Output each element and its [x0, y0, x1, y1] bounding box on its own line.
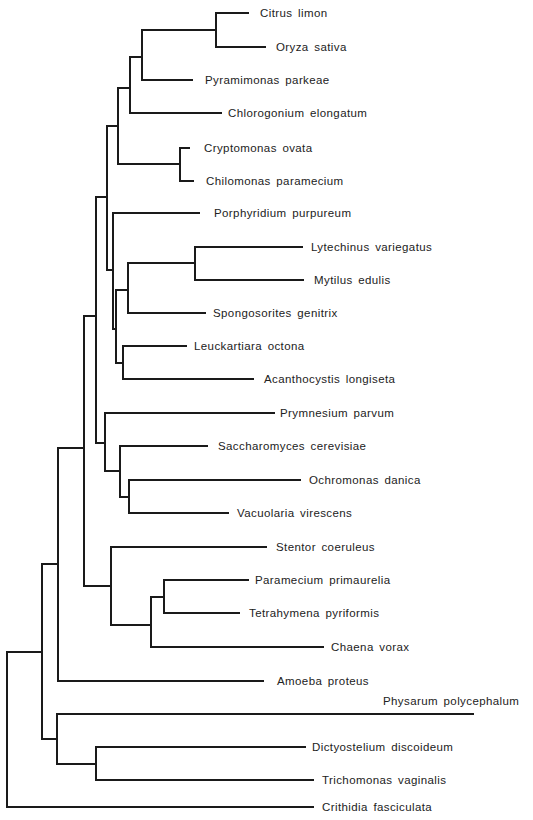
taxon-label: Physarum polycephalum	[383, 694, 519, 708]
taxon-label: Tetrahymena pyriformis	[249, 606, 379, 620]
taxon-label: Leuckartiara octona	[194, 339, 305, 353]
taxon-label: Chaena vorax	[331, 640, 409, 654]
taxon-labels: Citrus limonOryza sativaPyramimonas park…	[0, 0, 533, 820]
taxon-label: Chlorogonium elongatum	[228, 106, 367, 120]
taxon-label: Crithidia fasciculata	[322, 800, 432, 814]
taxon-label: Prymnesium parvum	[280, 406, 394, 420]
taxon-label: Trichomonas vaginalis	[322, 773, 446, 787]
taxon-label: Saccharomyces cerevisiae	[218, 439, 366, 453]
taxon-label: Mytilus edulis	[314, 273, 391, 287]
taxon-label: Porphyridium purpureum	[214, 206, 351, 220]
taxon-label: Chilomonas paramecium	[206, 174, 344, 188]
taxon-label: Cryptomonas ovata	[204, 141, 313, 155]
taxon-label: Pyramimonas parkeae	[205, 73, 330, 87]
taxon-label: Paramecium primaurelia	[255, 573, 390, 587]
taxon-label: Acanthocystis longiseta	[264, 372, 395, 386]
taxon-label: Ochromonas danica	[309, 473, 421, 487]
taxon-label: Citrus limon	[260, 6, 328, 20]
taxon-label: Spongosorites genitrix	[213, 306, 338, 320]
taxon-label: Amoeba proteus	[277, 674, 369, 688]
taxon-label: Vacuolaria virescens	[237, 506, 352, 520]
taxon-label: Lytechinus variegatus	[311, 240, 432, 254]
taxon-label: Stentor coeruleus	[276, 540, 375, 554]
taxon-label: Dictyostelium discoideum	[312, 740, 453, 754]
taxon-label: Oryza sativa	[276, 40, 347, 54]
